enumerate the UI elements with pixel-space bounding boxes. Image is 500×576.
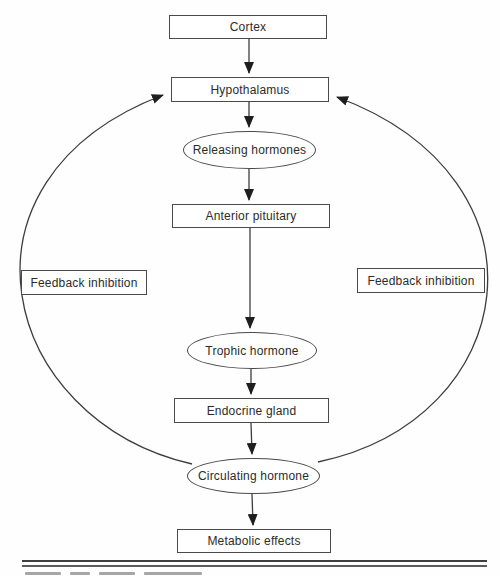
figure-rule-bottom	[22, 565, 487, 567]
label-feedback-inhibition-left: Feedback inhibition	[21, 270, 147, 295]
node-cortex: Cortex	[169, 15, 327, 39]
node-hypothalamus: Hypothalamus	[171, 77, 329, 102]
arrow-endocrine-gland-to-circulating-hormone	[251, 423, 252, 454]
caption-fragment-3	[99, 572, 135, 575]
node-trophic-hormone: Trophic hormone	[187, 332, 317, 369]
figure-rule-top	[22, 560, 487, 562]
cropped-caption-fragment	[25, 572, 202, 576]
caption-fragment-2	[70, 572, 90, 575]
caption-fragment-4	[144, 572, 202, 575]
node-metabolic-effects: Metabolic effects	[177, 529, 331, 553]
arrow-circulating-hormone-to-metabolic-effects	[252, 494, 253, 525]
label-feedback-inhibition-right: Feedback inhibition	[357, 268, 485, 293]
diagram-page: Cortex Hypothalamus Releasing hormones A…	[0, 0, 500, 576]
caption-fragment-1	[25, 572, 61, 575]
node-anterior-pituitary: Anterior pituitary	[172, 204, 330, 228]
node-endocrine-gland: Endocrine gland	[174, 398, 329, 423]
node-circulating-hormone: Circulating hormone	[187, 458, 320, 494]
node-releasing-hormones: Releasing hormones	[183, 131, 316, 169]
